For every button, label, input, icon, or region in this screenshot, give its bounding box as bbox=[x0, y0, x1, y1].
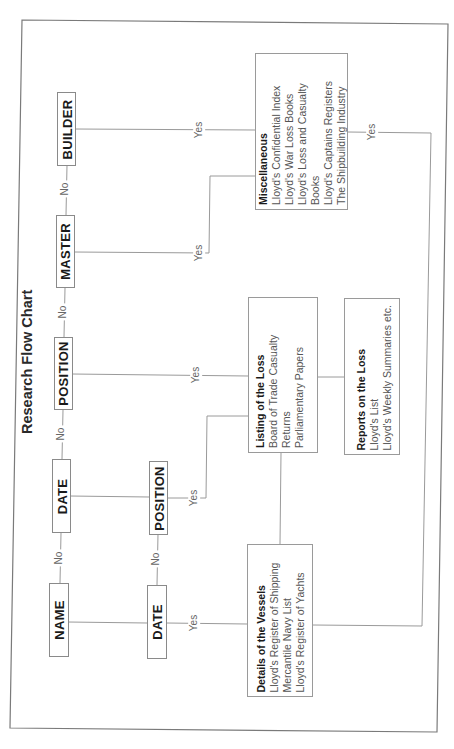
miscellaneous-box: Miscellaneous Lloyd's Confidential Index… bbox=[255, 53, 348, 210]
reports-item: Lloyd's Weekly Summaries etc. bbox=[380, 305, 393, 450]
reports-heading: Reports on the Loss bbox=[354, 348, 367, 450]
builder-label: BUILDER bbox=[59, 99, 74, 159]
listing-of-loss-box: Listing of the Loss Board of Trade Casua… bbox=[248, 297, 318, 453]
no-label-master-builder: No bbox=[59, 181, 71, 198]
date2-box: DATE bbox=[147, 585, 167, 659]
listing-item: Board of Trade Casualty Returns bbox=[267, 298, 293, 448]
position-label: POSITION bbox=[56, 341, 71, 406]
no-label-date2-position2: No bbox=[150, 551, 162, 568]
no-label-name-date: No bbox=[53, 550, 65, 567]
yes-label-builder-misc: Yes bbox=[193, 120, 205, 140]
misc-item: Lloyd's Captains Registers bbox=[322, 81, 335, 205]
master-label: MASTER bbox=[58, 223, 73, 280]
yes-label-master-misc: Yes bbox=[193, 243, 205, 263]
position2-label: POSITION bbox=[151, 466, 166, 531]
reports-item: Lloyd's List bbox=[367, 398, 380, 450]
details-of-vessels-box: Details of the Vessels Lloyd's Register … bbox=[247, 544, 313, 697]
yes-label-date2-details: Yes bbox=[188, 613, 200, 633]
position-box: POSITION bbox=[54, 337, 73, 410]
listing-heading: Listing of the Loss bbox=[254, 355, 267, 448]
misc-item: Lloyd's War Loss Books bbox=[283, 94, 296, 205]
reports-on-loss-box: Reports on the Loss Lloyd's List Lloyd's… bbox=[344, 298, 400, 455]
misc-heading: Miscellaneous bbox=[257, 133, 270, 205]
no-label-position-master: No bbox=[57, 304, 69, 321]
research-flow-chart-page: Research Flow Chart NAME DATE POSITION M… bbox=[0, 0, 454, 749]
master-box: MASTER bbox=[56, 215, 75, 288]
yes-label-position2-listing: Yes bbox=[188, 488, 200, 508]
misc-item: Lloyd's Confidential Index bbox=[270, 86, 283, 205]
details-heading: Details of the Vessels bbox=[254, 585, 267, 692]
chart-title: Research Flow Chart bbox=[19, 300, 37, 434]
builder-box: BUILDER bbox=[57, 92, 76, 166]
date-label: DATE bbox=[54, 478, 69, 514]
misc-item: The Shipbuilding Industry bbox=[335, 87, 348, 206]
yes-label-position-listing: Yes bbox=[190, 365, 202, 385]
date-box: DATE bbox=[52, 459, 71, 533]
no-label-date-position: No bbox=[55, 426, 67, 443]
listing-item: Parliamentary Papers bbox=[293, 347, 306, 448]
name-box: NAME bbox=[49, 583, 69, 657]
date2-label: DATE bbox=[150, 604, 165, 640]
position2-box: POSITION bbox=[149, 461, 168, 535]
details-item: Mercantile Navy List bbox=[280, 597, 293, 692]
details-item: Lloyd's Register of Yachts bbox=[293, 572, 306, 692]
details-item: Lloyd's Register of Shipping bbox=[267, 562, 280, 692]
yes-label-misc-details: Yes bbox=[366, 122, 378, 142]
name-label: NAME bbox=[52, 600, 67, 639]
misc-item: Lloyd's Loss and Casualty Books bbox=[296, 54, 322, 205]
